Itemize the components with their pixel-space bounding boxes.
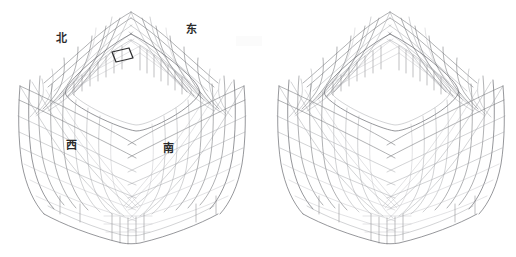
- interior-columns: [74, 46, 190, 95]
- right-stadium-view: [277, 12, 505, 244]
- scan-artifact: [236, 36, 262, 46]
- facade-lattice-east: [124, 76, 246, 231]
- highlighted-panel: [112, 48, 133, 62]
- left-stadium-view: [18, 12, 252, 244]
- direction-label-east: 东: [186, 24, 197, 35]
- facade-lattice-west: [18, 76, 140, 231]
- direction-label-north: 北: [56, 33, 67, 44]
- direction-label-south: 南: [163, 143, 174, 154]
- facade-lattice-east-right: [383, 76, 505, 231]
- interior-columns-right: [333, 46, 449, 95]
- direction-label-west: 西: [66, 140, 77, 151]
- stadium-wireframe-figure: [0, 0, 516, 257]
- roof-lattice-northeast: [128, 12, 232, 117]
- roof-lattice-northeast-right: [387, 12, 491, 117]
- facade-lattice-west-right: [277, 76, 399, 231]
